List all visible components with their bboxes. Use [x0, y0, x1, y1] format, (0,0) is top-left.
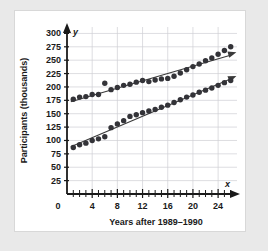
data-point — [209, 85, 214, 90]
data-point — [203, 87, 208, 92]
data-point — [159, 105, 164, 110]
data-point — [127, 114, 132, 119]
data-point — [121, 83, 126, 88]
x-tick-label: 8 — [115, 201, 120, 211]
axes — [63, 23, 240, 198]
data-point — [222, 48, 227, 53]
y-axis-symbol: y — [72, 27, 79, 37]
data-point — [215, 83, 220, 88]
data-point — [203, 58, 208, 63]
x-axis-symbol: x — [224, 179, 231, 189]
data-point — [152, 77, 157, 82]
y-tick-label: 275 — [46, 42, 61, 52]
y-tick-label: 50 — [51, 162, 61, 172]
y-tick-label: 300 — [46, 28, 61, 38]
data-point — [171, 100, 176, 105]
y-axis-title: Participants (thousands) — [19, 58, 29, 164]
participants-scatter-chart: 255075100125150175200225250275300 048121… — [15, 11, 245, 231]
data-point — [83, 94, 88, 99]
data-point — [178, 97, 183, 102]
data-point — [171, 74, 176, 79]
upper-series-trendline-arrow — [227, 51, 236, 57]
data-point — [228, 78, 233, 83]
data-point — [89, 92, 94, 97]
data-point — [83, 140, 88, 145]
data-point — [190, 64, 195, 69]
data-point — [115, 85, 120, 90]
data-point — [197, 61, 202, 66]
data-point — [89, 138, 94, 143]
y-tick-label: 150 — [46, 109, 61, 119]
trend-lines — [71, 51, 237, 146]
data-point — [222, 80, 227, 85]
data-point — [215, 52, 220, 57]
data-point — [190, 92, 195, 97]
data-point — [178, 70, 183, 75]
data-point — [184, 67, 189, 72]
chart-card: 255075100125150175200225250275300 048121… — [14, 10, 246, 232]
data-point — [146, 79, 151, 84]
data-point — [209, 55, 214, 60]
data-point — [108, 87, 113, 92]
data-point — [115, 121, 120, 126]
data-point — [134, 112, 139, 117]
data-point — [127, 82, 132, 87]
data-point — [121, 118, 126, 123]
data-point — [146, 108, 151, 113]
x-tick-label: 20 — [188, 201, 198, 211]
data-point — [134, 79, 139, 84]
y-tick-label: 200 — [46, 82, 61, 92]
gridlines — [67, 27, 237, 194]
data-point — [165, 76, 170, 81]
data-point — [140, 78, 145, 83]
y-tick-label: 100 — [46, 135, 61, 145]
data-point — [108, 125, 113, 130]
x-tick-label: 16 — [163, 201, 173, 211]
data-point — [96, 92, 101, 97]
data-point — [102, 134, 107, 139]
data-point — [197, 90, 202, 95]
y-tick-label: 225 — [46, 69, 61, 79]
x-tick-label: 24 — [213, 201, 223, 211]
data-point — [77, 142, 82, 147]
data-point — [140, 110, 145, 115]
data-point — [184, 94, 189, 99]
y-tick-label: 175 — [46, 95, 61, 105]
x-tick-label: 4 — [90, 201, 95, 211]
x-tick-label: 0 — [55, 201, 60, 211]
y-tick-label: 25 — [51, 176, 61, 186]
y-tick-label: 250 — [46, 55, 61, 65]
data-point — [102, 81, 107, 86]
x-axis-title: Years after 1989–1990 — [109, 217, 203, 227]
x-tick-labels: 04812162024 — [55, 201, 223, 211]
data-point — [77, 94, 82, 99]
y-tick-label: 75 — [51, 149, 61, 159]
data-point — [152, 107, 157, 112]
y-tick-labels: 255075100125150175200225250275300 — [46, 28, 61, 185]
data-point — [71, 97, 76, 102]
data-point — [228, 44, 233, 49]
data-point — [96, 136, 101, 141]
data-point — [159, 76, 164, 81]
data-point — [165, 102, 170, 107]
x-tick-label: 12 — [138, 201, 148, 211]
y-tick-label: 125 — [46, 122, 61, 132]
data-point — [71, 145, 76, 150]
